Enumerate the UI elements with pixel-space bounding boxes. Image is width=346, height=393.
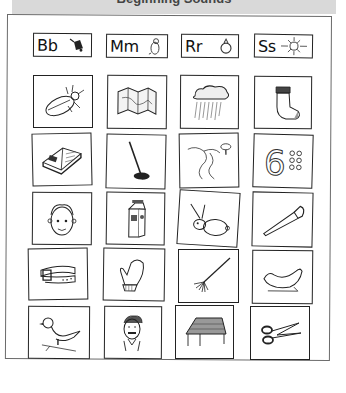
picture-card-milk: [106, 192, 166, 246]
picture-card-boy: [32, 192, 92, 246]
seal-icon: [259, 257, 305, 297]
letter-card-mm: Mm: [106, 34, 168, 59]
picture-card-river: [179, 133, 240, 189]
picture-card-man: [104, 306, 162, 359]
mouse-icon: [148, 37, 162, 55]
ring-icon: [219, 38, 233, 54]
letter-label: Rr: [185, 36, 202, 55]
picture-card-book: [31, 132, 92, 186]
mitten-icon: [111, 254, 158, 295]
six-icon: 6: [259, 140, 306, 181]
letter-label: Bb: [37, 35, 58, 54]
beetle-icon: [40, 82, 86, 122]
scissors-icon: [257, 313, 303, 353]
picture-card-rake: [178, 249, 239, 303]
picture-card-six: 6: [252, 133, 313, 189]
picture-card-rain: [180, 75, 239, 129]
svg-text:6: 6: [263, 143, 286, 184]
saw-icon: [259, 199, 306, 240]
letter-card-bb: Bb: [33, 33, 92, 57]
picture-card-roof: [175, 305, 234, 359]
sock-icon: [260, 82, 306, 122]
letter-card-rr: Rr: [181, 34, 239, 58]
bird-icon: [36, 312, 82, 352]
worksheet-title: Beginning Sounds: [12, 0, 336, 6]
picture-card-scissors: [250, 306, 310, 360]
picture-card-sock: [254, 76, 312, 129]
rake-icon: [186, 256, 232, 296]
picture-card-mitten: [103, 248, 166, 302]
bell-icon: [68, 37, 86, 53]
milk-carton-icon: [112, 198, 159, 239]
picture-card-belt: [28, 248, 89, 301]
picture-card-saw: [251, 191, 313, 247]
river-icon: [186, 140, 233, 181]
mop-icon: [113, 141, 160, 182]
picture-card-mop: [105, 133, 166, 189]
worksheet-header: Beginning Sounds: [12, 0, 336, 14]
picture-card-bird: [28, 306, 90, 359]
letter-label: Mm: [110, 36, 139, 55]
book-icon: [39, 139, 86, 180]
belt-icon: [35, 254, 82, 295]
roof-icon: [182, 312, 228, 352]
boy-face-icon: [39, 198, 85, 238]
map-icon: [114, 82, 160, 122]
picture-card-seal: [252, 250, 314, 305]
letter-card-ss: Ss: [254, 34, 313, 59]
picture-card-beetle: [33, 75, 93, 128]
letter-label: Ss: [258, 36, 276, 55]
rain-cloud-icon: [186, 82, 232, 122]
man-icon: [110, 312, 156, 352]
picture-card-map: [107, 75, 168, 130]
rabbit-icon: [184, 197, 232, 240]
picture-card-rabbit: [176, 189, 240, 248]
sun-icon: [281, 37, 307, 55]
